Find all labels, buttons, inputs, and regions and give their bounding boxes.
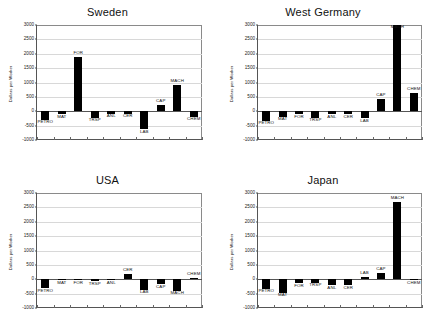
- bar: [74, 57, 82, 112]
- y-tick-label: 2000: [24, 219, 37, 224]
- bar-label: FOR: [294, 115, 304, 119]
- y-tick-label: 2500: [245, 37, 258, 42]
- bar-group: LAB: [356, 25, 372, 140]
- chart-panel: SwedenDollars per Worker3000250020001500…: [0, 0, 215, 168]
- bar-group: ANL: [103, 193, 120, 308]
- bar-group: MACH: [169, 193, 186, 308]
- chart-panel: West GermanyDollars per Worker3000250020…: [215, 0, 431, 168]
- y-tick-label: -500: [25, 291, 37, 296]
- bar: [190, 278, 198, 280]
- bar-label: CAP: [376, 93, 385, 97]
- bar-label: FOR: [294, 284, 304, 288]
- bar-group: CHEM: [406, 193, 422, 308]
- bar-group: TRSP: [307, 25, 323, 140]
- x-tick-mark: [202, 137, 203, 140]
- y-axis-label: Dollars per Worker: [8, 66, 13, 103]
- y-tick-label: 500: [26, 263, 37, 268]
- bar-group: CER: [340, 193, 356, 308]
- bar-series: PETROMATFORTRSPANLCERLABCAPMACHCHEM: [37, 25, 202, 140]
- bar: [173, 85, 181, 111]
- bar-label: LAB: [140, 130, 149, 134]
- bar-group: ANL: [324, 25, 340, 140]
- chart-panel: USADollars per Worker3000250020001500100…: [0, 168, 215, 336]
- bar-label: CHEM: [187, 272, 200, 276]
- bar-group: CAP: [373, 193, 389, 308]
- bar-group: LAB: [356, 193, 372, 308]
- bar: [377, 99, 385, 111]
- chart-title: Japan: [215, 174, 431, 186]
- bar-group: MACH: [389, 25, 405, 140]
- y-tick-label: 1500: [245, 234, 258, 239]
- bar-label: ANL: [327, 115, 336, 119]
- bar-group: PETRO: [37, 25, 54, 140]
- bar-series: PETROMATFORTRSPANLCERLABCAPMACHCHEM: [258, 25, 422, 140]
- bar-group: CAP: [373, 25, 389, 140]
- bar-group: CAP: [153, 25, 170, 140]
- y-tick-label: 1000: [245, 80, 258, 85]
- bar-group: FOR: [291, 193, 307, 308]
- bar-label: PETRO: [37, 120, 53, 124]
- bar-label: CER: [343, 115, 353, 119]
- bar-label: FOR: [73, 51, 83, 55]
- bar-label: TRSP: [309, 118, 321, 122]
- y-tick-label: -500: [246, 291, 258, 296]
- bar-group: PETRO: [258, 25, 274, 140]
- bar-group: CHEM: [186, 25, 203, 140]
- y-tick-label: 3000: [245, 23, 258, 28]
- bar: [140, 279, 148, 290]
- bar-label: TRSP: [89, 282, 101, 286]
- bar-label: MACH: [391, 25, 404, 29]
- plot-area: 300025002000150010005000-500-1000PETROMA…: [257, 25, 422, 140]
- bar: [377, 273, 385, 280]
- y-tick-label: -1000: [22, 138, 37, 143]
- bar-group: CER: [120, 193, 137, 308]
- y-tick-label: -1000: [243, 138, 258, 143]
- bar-group: FOR: [70, 193, 87, 308]
- y-tick-label: 1500: [245, 66, 258, 71]
- chart-panel: JapanDollars per Worker30002500200015001…: [215, 168, 431, 336]
- bar-group: CER: [120, 25, 137, 140]
- y-tick-label: 1500: [24, 234, 37, 239]
- bar-label: TRSP: [89, 118, 101, 122]
- bar: [124, 274, 132, 279]
- bar-label: MAT: [57, 281, 66, 285]
- plot-area: 300025002000150010005000-500-1000PETROMA…: [36, 25, 202, 140]
- bar: [410, 93, 418, 112]
- bar-group: TRSP: [87, 25, 104, 140]
- bar-group: MAT: [54, 193, 71, 308]
- bar-label: LAB: [360, 119, 369, 123]
- y-tick-label: 500: [247, 263, 258, 268]
- bar-label: CAP: [376, 267, 385, 271]
- bar-group: CER: [340, 25, 356, 140]
- bar-group: MAT: [274, 193, 290, 308]
- y-axis-label: Dollars per Worker: [8, 234, 13, 271]
- y-axis-label: Dollars per Worker: [229, 234, 234, 271]
- bar-label: ANL: [107, 281, 116, 285]
- bar-group: TRSP: [87, 193, 104, 308]
- bar-group: CHEM: [406, 25, 422, 140]
- plot-area: 300025002000150010005000-500-1000PETROMA…: [36, 193, 202, 308]
- bar: [140, 111, 148, 129]
- bar-label: CER: [343, 286, 353, 290]
- bar-label: TRSP: [309, 283, 321, 287]
- bar-group: FOR: [291, 25, 307, 140]
- y-tick-label: -1000: [22, 306, 37, 311]
- bar: [393, 202, 401, 280]
- bar-group: MAT: [274, 25, 290, 140]
- bar-label: PETRO: [37, 289, 53, 293]
- chart-title: Sweden: [0, 6, 215, 18]
- chart-title: USA: [0, 174, 215, 186]
- y-tick-label: -500: [246, 123, 258, 128]
- y-tick-label: -500: [25, 123, 37, 128]
- y-tick-label: 2500: [245, 205, 258, 210]
- x-tick-mark: [422, 305, 423, 308]
- chart-grid: SwedenDollars per Worker3000250020001500…: [0, 0, 431, 336]
- bar-label: CAP: [156, 285, 165, 289]
- bar-series: PETROMATFORTRSPANLCERLABCAPMACHCHEM: [37, 193, 202, 308]
- y-tick-label: 500: [26, 95, 37, 100]
- bar: [173, 279, 181, 291]
- x-tick-mark: [202, 305, 203, 308]
- bar-label: MACH: [171, 291, 184, 295]
- bar-label: CHEM: [407, 87, 420, 91]
- bar-label: MAT: [57, 115, 66, 119]
